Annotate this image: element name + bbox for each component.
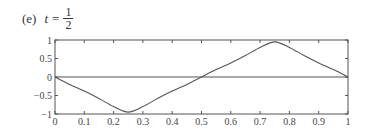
x-tick-label: 0.6: [225, 116, 238, 127]
x-tick-label: 0.9: [312, 116, 325, 127]
y-tick-label: −1: [41, 109, 52, 120]
x-tick-label: 0.2: [107, 116, 120, 127]
x-tick-label: 0.4: [166, 116, 179, 127]
x-tick-label: 1: [346, 116, 351, 127]
x-tick-label: 0.5: [195, 116, 208, 127]
x-tick-label: 0.1: [78, 116, 91, 127]
x-tick-label: 0: [53, 116, 58, 127]
x-tick-label: 0.7: [254, 116, 267, 127]
y-tick-label: 0: [47, 72, 52, 83]
line-chart: 00.10.20.30.40.50.60.70.80.9110.50−0.5−1: [0, 0, 365, 133]
x-tick-label: 0.3: [137, 116, 150, 127]
x-tick-label: 0.8: [283, 116, 296, 127]
y-tick-label: −0.5: [34, 90, 52, 101]
y-tick-label: 1: [47, 35, 52, 46]
y-tick-label: 0.5: [40, 53, 53, 64]
